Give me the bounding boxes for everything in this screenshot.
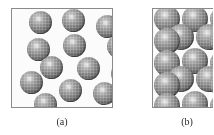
- sphere: [63, 34, 86, 57]
- sphere: [59, 79, 82, 102]
- sphere: [77, 57, 100, 80]
- sphere: [111, 62, 113, 85]
- sphere: [20, 71, 43, 94]
- sphere: [96, 15, 113, 38]
- sphere: [29, 11, 52, 34]
- panel-b-caption: (b): [160, 116, 214, 128]
- sphere: [62, 9, 85, 32]
- panel-b-close-packed: [152, 8, 213, 108]
- sphere: [93, 82, 113, 105]
- figure-root: (a) (b): [0, 0, 214, 135]
- sphere: [40, 56, 63, 79]
- sphere: [154, 93, 180, 108]
- sphere: [107, 35, 113, 58]
- sphere: [210, 93, 213, 108]
- panel-a-caption: (a): [0, 116, 124, 128]
- panel-a-random-dispersion: [11, 8, 113, 108]
- sphere: [34, 93, 57, 108]
- sphere: [182, 91, 208, 108]
